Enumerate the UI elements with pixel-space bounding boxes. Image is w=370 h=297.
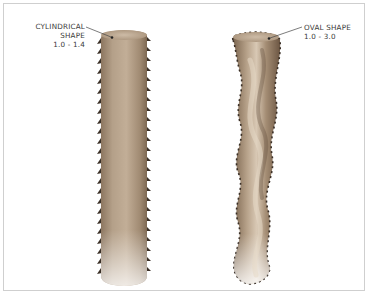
cylindrical-hair [97,30,151,286]
label-cylindrical: CYLINDRICAL SHAPE 1.0 - 1.4 [12,22,85,49]
label-cylindrical-name: CYLINDRICAL SHAPE [35,22,85,40]
label-cylindrical-ratio: 1.0 - 1.4 [12,40,85,49]
label-oval: OVAL SHAPE 1.0 - 3.0 [304,23,351,41]
leader-line-oval [270,27,302,38]
pointer-dot-oval [268,37,271,40]
pointer-dot-cylindrical [111,36,114,39]
oval-hair [233,32,281,284]
label-oval-ratio: 1.0 - 3.0 [304,32,351,41]
label-oval-name: OVAL SHAPE [304,23,351,32]
cylindrical-cross-section [101,30,147,40]
